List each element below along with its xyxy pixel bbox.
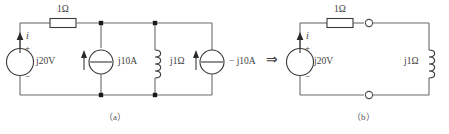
inductor-a-coil [155,50,161,78]
node-dot-a-top-2 [153,21,157,25]
caption-b: （b） [352,113,375,122]
current-source-a1-arrow-head [81,50,87,58]
caption-a: （a） [104,113,126,122]
inductor-b-coil [429,50,435,78]
resistor-a-label: 1Ω [57,5,69,15]
terminal-b-top [365,19,372,26]
resistor-b-body [327,19,353,28]
current-source-a1-label: j10A [118,57,137,67]
voltage-source-a-minus: − [25,72,30,81]
current-arrow-b-head [297,32,304,40]
resistor-a-body [50,19,76,28]
voltage-source-b-minus: − [305,72,310,81]
voltage-source-a-plus: + [25,44,30,53]
resistor-b-label: 1Ω [334,5,346,15]
current-source-a2-label: − j10A [229,57,256,67]
node-dot-a-bottom-1 [99,93,103,97]
inductor-a-label: j1Ω [170,57,184,67]
inductor-b-label: j1Ω [404,57,418,67]
node-dot-a-top-1 [99,21,103,25]
implies-arrow-icon: ⇒ [266,53,278,67]
current-label-a: i [26,31,29,41]
circuit-schematic-canvas [0,0,449,134]
circuit-figure: 1Ω i + j20V − j10A j1Ω − j10A ⇒ 1Ω i + j… [0,0,449,134]
current-label-b: i [306,31,309,41]
terminal-b-bottom [365,91,372,98]
current-source-a2-arrow-head [193,50,199,58]
current-arrow-a-head [17,32,24,40]
voltage-source-b-label: j20V [314,57,333,67]
voltage-source-a-label: j20V [36,57,55,67]
node-dot-a-bottom-2 [153,93,157,97]
voltage-source-b-plus: + [305,44,310,53]
